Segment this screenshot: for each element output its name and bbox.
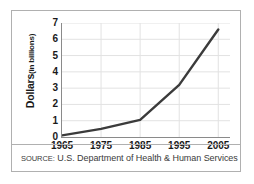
- source-text: SOURCE: U.S. Department of Health & Huma…: [21, 153, 238, 163]
- y-axis-title: Dollars(in billions): [21, 23, 37, 119]
- y-axis-tick-label: 1: [52, 116, 58, 126]
- y-axis-tick-label: 5: [52, 51, 58, 61]
- y-axis-title-main: Dollars: [24, 74, 36, 108]
- gridlines: [62, 23, 230, 137]
- y-axis-tick-label: 6: [52, 34, 58, 44]
- source-prefix: SOURCE:: [21, 154, 55, 163]
- chart-figure: Dollars(in billions) 0123456719651975198…: [11, 10, 241, 172]
- y-axis-title-sub: (in billions): [27, 34, 36, 74]
- source-note: SOURCE: U.S. Department of Health & Huma…: [12, 145, 240, 171]
- chart-area: Dollars(in billions) 0123456719651975198…: [12, 11, 240, 145]
- line-chart-svg: [62, 23, 230, 137]
- y-axis-tick-label: 4: [52, 67, 58, 77]
- y-axis-tick-label: 7: [52, 18, 58, 28]
- plot-area: 0123456719651975198519952005: [61, 23, 230, 138]
- source-body: U.S. Department of Health & Human Servic…: [57, 153, 237, 163]
- y-axis-tick-label: 3: [52, 83, 58, 93]
- y-axis-tick-label: 2: [52, 99, 58, 109]
